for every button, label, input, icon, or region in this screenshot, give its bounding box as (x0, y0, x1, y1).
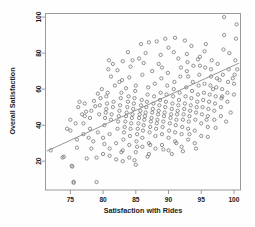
data-point (187, 75, 190, 78)
data-point (175, 113, 178, 116)
x-tick-label: 95 (198, 196, 206, 203)
data-point (170, 107, 173, 110)
scatter-plot-figure: 20406080100 7580859095100 Satisfaction w… (0, 0, 255, 227)
data-point (157, 109, 160, 112)
data-point (162, 115, 165, 118)
data-point (98, 113, 101, 116)
data-point (116, 69, 119, 72)
data-point (154, 134, 157, 137)
data-point (213, 118, 216, 121)
data-point (88, 116, 91, 119)
y-tick-labels: 20406080100 (35, 11, 42, 165)
data-point (179, 75, 182, 78)
data-point (200, 134, 203, 137)
data-point (167, 46, 170, 49)
data-point (84, 110, 87, 113)
data-point (69, 129, 72, 132)
data-point (122, 131, 125, 134)
data-point (226, 100, 229, 103)
data-point (213, 109, 216, 112)
y-axis-ticks (42, 17, 46, 161)
data-point (133, 97, 136, 100)
data-point (182, 113, 185, 116)
data-point (166, 71, 169, 74)
data-point (87, 136, 90, 139)
data-point (162, 120, 165, 123)
data-point (194, 118, 197, 121)
data-point (143, 115, 146, 118)
data-point (226, 80, 229, 83)
data-point (204, 42, 207, 45)
data-point (140, 98, 143, 101)
data-point (106, 91, 109, 94)
data-point (215, 86, 218, 89)
data-point (200, 122, 203, 125)
x-tick-label: 90 (165, 196, 173, 203)
data-point (111, 62, 114, 65)
data-point (175, 118, 178, 121)
x-axis-ticks (70, 190, 234, 194)
data-point (185, 69, 188, 72)
data-point (126, 51, 129, 54)
data-point (193, 129, 196, 132)
data-point (206, 125, 209, 128)
data-point (166, 84, 169, 87)
data-point (118, 104, 121, 107)
data-point (139, 42, 142, 45)
data-point (174, 124, 177, 127)
data-point (180, 133, 183, 136)
data-point (131, 59, 134, 62)
data-point (127, 95, 130, 98)
data-point (164, 37, 167, 40)
data-point (146, 93, 149, 96)
data-point (205, 118, 208, 121)
data-point (160, 77, 163, 80)
data-point (119, 97, 122, 100)
data-point (222, 48, 225, 51)
data-point (147, 41, 150, 44)
data-point (160, 66, 163, 69)
data-point (183, 39, 186, 42)
data-point (187, 127, 190, 130)
data-point (159, 53, 162, 56)
data-point (151, 69, 154, 72)
data-point (173, 36, 176, 39)
data-point (188, 115, 191, 118)
data-point (116, 127, 119, 130)
data-point (83, 102, 86, 105)
data-point (163, 111, 166, 114)
data-point (210, 59, 213, 62)
data-point (200, 113, 203, 116)
data-point (236, 68, 239, 71)
data-point (118, 109, 121, 112)
data-points (49, 15, 239, 184)
data-point (100, 87, 103, 90)
data-point (228, 51, 231, 54)
x-tick-labels: 7580859095100 (67, 196, 240, 203)
data-point (130, 116, 133, 119)
data-point (233, 73, 236, 76)
plot-canvas: 20406080100 7580859095100 Satisfaction w… (0, 0, 255, 227)
y-tick-label: 40 (35, 121, 42, 129)
data-point (171, 102, 174, 105)
data-point (169, 113, 172, 116)
data-point (188, 133, 191, 136)
data-point (101, 136, 104, 139)
data-point (156, 113, 159, 116)
data-point (95, 180, 98, 183)
data-point (146, 155, 149, 158)
data-point (130, 122, 133, 125)
data-point (206, 135, 209, 138)
data-point (229, 111, 232, 114)
data-point (161, 125, 164, 128)
data-point (219, 106, 222, 109)
data-point (187, 120, 190, 123)
data-point (177, 104, 180, 107)
data-point (108, 147, 111, 150)
data-point (134, 151, 137, 154)
data-point (224, 120, 227, 123)
data-point (152, 95, 155, 98)
data-point (116, 120, 119, 123)
data-point (189, 104, 192, 107)
data-point (107, 68, 110, 71)
